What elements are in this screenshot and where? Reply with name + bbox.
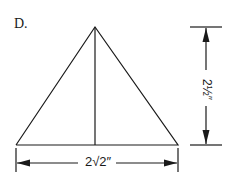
- triangle-outline: [16, 27, 178, 145]
- triangle-diagram: [0, 0, 233, 189]
- height-dimension-label: 2½″: [200, 76, 214, 103]
- arrowhead-right-icon: [164, 160, 177, 167]
- arrowhead-left-icon: [17, 160, 30, 167]
- arrowhead-up-icon: [203, 28, 210, 42]
- base-dimension-label: 2√2″: [82, 154, 114, 169]
- part-label: D.: [14, 16, 28, 32]
- arrowhead-down-icon: [203, 130, 210, 144]
